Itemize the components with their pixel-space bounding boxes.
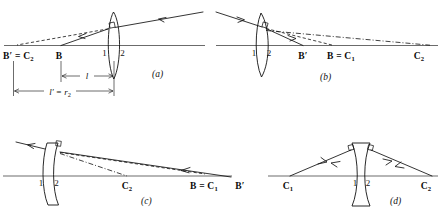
panel-d-label-c2: C2	[421, 181, 432, 192]
panel-c-surface-2-label: 2	[54, 178, 59, 188]
panel-a-surface-1-label: 1	[102, 48, 107, 58]
panel-d-letter: (d)	[390, 196, 401, 207]
panel-c-label-b-prime: B′	[235, 181, 245, 191]
panel-d-refracted-ray-left	[290, 150, 351, 176]
panel-c-virtual-ray-dashed	[60, 153, 205, 175]
panel-a-label-b: B	[56, 51, 63, 61]
panel-a-surface-2-label: 2	[120, 48, 125, 58]
panel-d-arrow-mid-left	[331, 162, 340, 168]
panel-b-surface-2-label: 2	[267, 48, 272, 58]
panel-d-incident-ray-right	[371, 150, 432, 176]
panel-d: 1 2 C1 C2 (d)	[268, 143, 438, 207]
optics-figure: 1 2 B′ = C2 B l	[0, 0, 441, 212]
panel-c-refracted-ray	[16, 142, 45, 149]
panel-b-refracted-ray-arrow	[288, 36, 296, 42]
panel-a: 1 2 B′ = C2 B l	[3, 12, 205, 98]
figure-canvas: 1 2 B′ = C2 B l	[0, 0, 441, 212]
panel-b-incident-ray	[216, 12, 262, 27]
panel-c-normal-marker	[56, 141, 62, 147]
panel-b-label-c2: C2	[414, 51, 425, 62]
panel-b-label-b-c1: B = C1	[327, 51, 355, 62]
panel-c-lens-meniscus	[43, 143, 59, 205]
panel-d-arrow-mid-right	[383, 159, 392, 165]
panel-a-refracted-ray	[61, 29, 109, 46]
panel-a-virtual-ray-dashed	[17, 29, 109, 45]
panel-b-dashdot-ray-c2	[266, 31, 430, 46]
panel-d-lens-biconcave	[352, 143, 370, 206]
panel-a-normal-marker	[109, 22, 115, 28]
panel-b: 1 2 B′ B = C1 C2 (b)	[216, 12, 438, 83]
panel-a-label-b-prime-c2: B′ = C2	[3, 51, 34, 62]
panel-d-surface-1-label: 1	[353, 178, 358, 188]
panel-c-incident-ray	[60, 152, 231, 177]
panel-a-letter: (a)	[152, 69, 163, 80]
panel-c-label-c2: C2	[122, 181, 133, 192]
panel-b-label-b-prime: B′	[298, 51, 308, 61]
panel-a-dim-lprime-label: l′ = r2	[49, 87, 71, 98]
panel-d-refracted-ray-left-arrow	[318, 158, 327, 165]
panel-a-incident-ray-arrow	[159, 18, 167, 23]
panel-d-label-c1: C1	[283, 181, 294, 192]
panel-c: 1 2 C2 B = C1 B′ (c)	[3, 141, 245, 207]
panel-c-letter: (c)	[141, 196, 152, 207]
panel-b-letter: (b)	[320, 72, 331, 83]
panel-d-surface-2-label: 2	[366, 178, 371, 188]
panel-d-incident-ray-right-arrow	[395, 162, 404, 168]
panel-c-surface-1-label: 1	[39, 178, 44, 188]
panel-b-surface-1-label: 1	[252, 48, 257, 58]
panel-b-refracted-ray	[266, 29, 303, 46]
panel-c-label-b-c1: B = C1	[190, 181, 218, 192]
